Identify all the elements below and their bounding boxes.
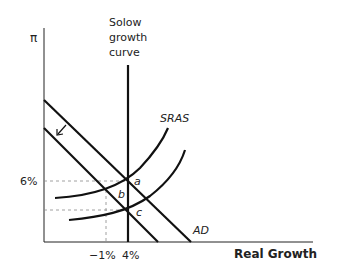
point-c-label: c [136,207,142,218]
solow-label-line2: growth [109,32,147,43]
sras-curve-initial [55,128,168,198]
x-axis-label: Real Growth [234,248,317,260]
point-b-label: b [118,189,125,200]
y-axis-label: π [30,32,37,44]
x-tick-minus1pct: −1% [89,250,116,261]
chart-canvas [0,0,337,276]
y-tick-6pct: 6% [20,176,37,187]
x-tick-4pct: 4% [122,250,139,261]
point-a-label: a [134,176,141,187]
shift-arrow [58,125,66,134]
solow-label-line1: Solow [109,17,142,28]
solow-label-line3: curve [109,47,140,58]
sras-label: SRAS [160,113,189,124]
ad-label: AD [193,225,209,236]
